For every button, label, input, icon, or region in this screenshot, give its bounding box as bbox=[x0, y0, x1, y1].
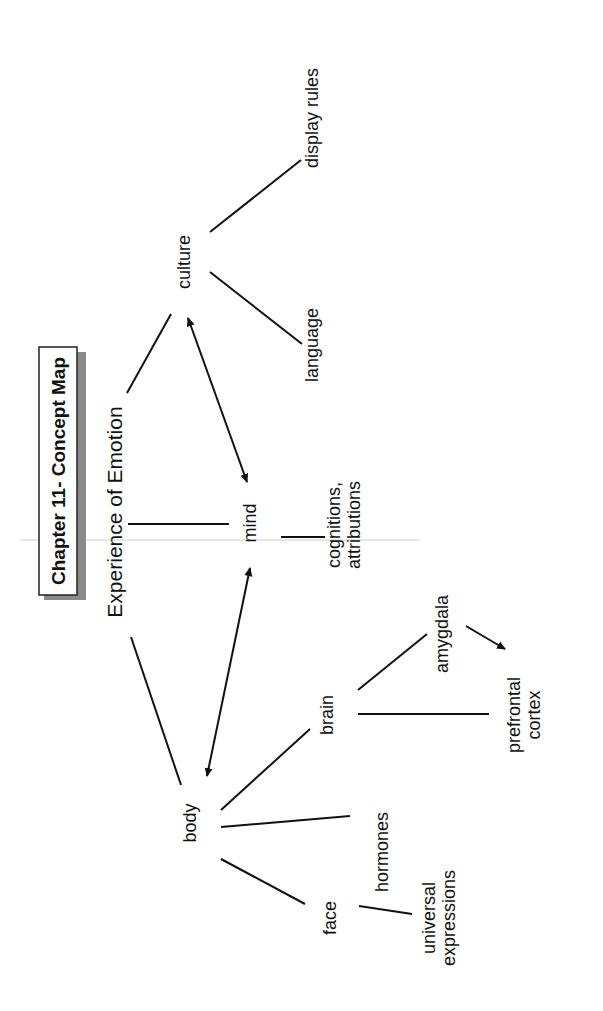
node-face: face bbox=[320, 901, 340, 935]
node-hormones: hormones bbox=[372, 812, 392, 892]
edge-body-to-hormones bbox=[221, 816, 350, 827]
node-universal: universalexpressions bbox=[419, 870, 459, 966]
node-mind: mind bbox=[240, 503, 260, 542]
edge-body-to-brain bbox=[221, 729, 310, 810]
node-amygdala: amygdala bbox=[432, 594, 452, 673]
edge-root-to-culture bbox=[127, 314, 171, 393]
edge-culture-to-display_rules bbox=[210, 160, 301, 232]
node-body: body bbox=[180, 803, 200, 842]
edge-culture-to-language bbox=[210, 272, 302, 344]
nodes-layer: culturedisplay ruleslanguagemindcognitio… bbox=[174, 68, 544, 966]
node-brain: brain bbox=[317, 695, 337, 735]
root-concept-label: Experience of Emotion bbox=[103, 406, 126, 617]
title-box: Chapter 11- Concept Map bbox=[39, 347, 86, 600]
node-culture: culture bbox=[174, 235, 194, 289]
node-prefrontal: prefrontalcortex bbox=[504, 677, 544, 753]
edge-body-to-face bbox=[221, 859, 305, 904]
edge-mind-to-body bbox=[207, 568, 250, 776]
node-display-rules: display rules bbox=[302, 68, 322, 168]
edge-root-to-body bbox=[131, 637, 181, 785]
page-title: Chapter 11- Concept Map bbox=[48, 357, 69, 585]
concept-map-diagram: Chapter 11- Concept Map Experience of Em… bbox=[0, 0, 603, 1011]
edge-culture-to-mind bbox=[188, 318, 247, 482]
edge-face-to-universal bbox=[359, 906, 412, 914]
node-language: language bbox=[302, 308, 322, 382]
edge-brain-to-amygdala bbox=[358, 634, 427, 690]
edge-amygdala-to-prefrontal bbox=[466, 626, 505, 649]
node-cognitions: cognitions,attributions bbox=[324, 481, 364, 569]
